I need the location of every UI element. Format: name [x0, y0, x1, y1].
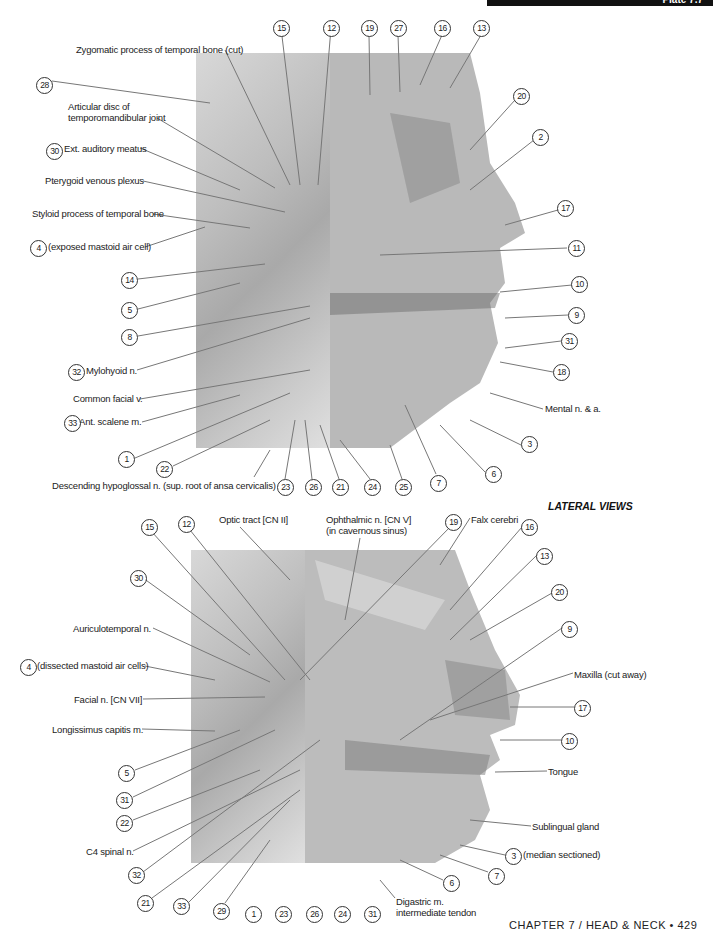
anatomy-label: Mental n. & a. — [545, 403, 601, 414]
callout-number: 10 — [571, 276, 588, 293]
callout-number: 32 — [68, 364, 85, 381]
callout-number: 12 — [323, 20, 340, 37]
callout-number: 16 — [521, 519, 538, 536]
callout-number: 33 — [173, 898, 190, 915]
callout-number: 16 — [434, 20, 451, 37]
callout-number: 15 — [141, 519, 158, 536]
plate-header-bar: Plate 7.7 — [487, 0, 713, 6]
anatomy-label: Pterygoid venous plexus — [45, 175, 144, 186]
page-footer: CHAPTER 7 / HEAD & NECK • 429 — [509, 919, 697, 931]
anatomy-label: (in cavernous sinus) — [326, 525, 407, 536]
callout-number: 27 — [390, 20, 407, 37]
callout-number: 31 — [364, 906, 381, 923]
callout-number: 31 — [561, 333, 578, 350]
anatomy-label: Ant. scalene m. — [79, 416, 141, 427]
callout-number: 17 — [557, 200, 574, 217]
callout-number: 26 — [305, 479, 322, 496]
callout-number: 4 — [20, 659, 37, 676]
callout-number: 30 — [130, 570, 147, 587]
anatomy-label: Longissimus capitis m. — [52, 724, 143, 735]
callout-number: 6 — [443, 875, 460, 892]
callout-number: 28 — [36, 77, 53, 94]
callout-number: 3 — [521, 436, 538, 453]
callout-number: 7 — [488, 868, 505, 885]
anatomy-label: intermediate tendon — [396, 907, 476, 918]
anatomy-label: Sublingual gland — [532, 821, 599, 832]
callout-number: 25 — [395, 479, 412, 496]
callout-number: 23 — [275, 906, 292, 923]
callout-number: 9 — [568, 307, 585, 324]
callout-number: 3 — [505, 848, 522, 865]
callout-number: 19 — [445, 514, 462, 531]
callout-number: 30 — [46, 143, 63, 160]
callout-number: 15 — [273, 20, 290, 37]
callout-number: 22 — [156, 461, 173, 478]
anatomy-label: Common facial v. — [73, 393, 142, 404]
anatomy-label: (median sectioned) — [523, 849, 600, 860]
callout-number: 32 — [128, 867, 145, 884]
callout-number: 29 — [213, 903, 230, 920]
callout-number: 10 — [561, 733, 578, 750]
callout-number: 11 — [568, 240, 585, 257]
callout-number: 5 — [118, 765, 135, 782]
callout-number: 4 — [30, 240, 47, 257]
anatomy-label: (dissected mastoid air cells) — [37, 660, 148, 671]
anatomy-label: Maxilla (cut away) — [574, 669, 646, 680]
anatomy-label: Mylohyoid n. — [86, 365, 137, 376]
callout-number: 21 — [332, 479, 349, 496]
callout-number: 2 — [532, 129, 549, 146]
callout-number: 6 — [485, 466, 502, 483]
callout-number: 20 — [551, 584, 568, 601]
anatomy-label: Tongue — [548, 766, 578, 777]
dissection-photo-top-neck — [196, 53, 331, 448]
callout-number: 12 — [178, 516, 195, 533]
anatomy-label: Digastric m. — [396, 896, 444, 907]
dissection-photo-top-face — [330, 53, 525, 448]
callout-number: 22 — [116, 815, 133, 832]
anatomy-label: C4 spinal n. — [86, 846, 134, 857]
callout-number: 1 — [245, 906, 262, 923]
anatomy-label: Ophthalmic n. [CN V] — [326, 514, 411, 525]
callout-number: 7 — [430, 475, 447, 492]
callout-number: 20 — [513, 88, 530, 105]
anatomy-label: Articular disc of — [68, 101, 130, 112]
callout-number: 14 — [121, 272, 138, 289]
callout-number: 17 — [574, 700, 591, 717]
plate-number: Plate 7.7 — [662, 0, 703, 5]
section-title: LATERAL VIEWS — [548, 500, 633, 512]
anatomy-label: Falx cerebri — [471, 514, 518, 525]
anatomy-label: Optic tract [CN II] — [219, 514, 288, 525]
callout-number: 23 — [277, 479, 294, 496]
anatomy-label: (exposed mastoid air cell) — [48, 241, 151, 252]
anatomy-label: Auriculotemporal n. — [73, 623, 151, 634]
callout-number: 13 — [473, 20, 490, 37]
anatomy-label: Zygomatic process of temporal bone (cut) — [76, 44, 243, 55]
anatomy-label: Ext. auditory meatus — [64, 143, 147, 154]
callout-number: 24 — [334, 906, 351, 923]
callout-number: 26 — [306, 906, 323, 923]
callout-number: 33 — [64, 415, 81, 432]
callout-number: 24 — [364, 479, 381, 496]
callout-number: 1 — [118, 451, 135, 468]
callout-number: 13 — [536, 548, 553, 565]
dissection-photo-bottom-neck — [191, 550, 306, 863]
dissection-photo-bottom-face — [305, 550, 525, 863]
callout-number: 31 — [116, 792, 133, 809]
anatomy-label: temporomandibular joint — [68, 112, 165, 123]
anatomy-label: Descending hypoglossal n. (sup. root of … — [52, 480, 276, 491]
callout-number: 18 — [553, 364, 570, 381]
callout-number: 19 — [361, 20, 378, 37]
anatomy-label: Facial n. [CN VII] — [74, 694, 142, 705]
callout-number: 5 — [121, 302, 138, 319]
callout-number: 9 — [561, 621, 578, 638]
anatomy-label: Styloid process of temporal bone — [32, 208, 164, 219]
callout-number: 21 — [137, 895, 154, 912]
callout-number: 8 — [121, 329, 138, 346]
